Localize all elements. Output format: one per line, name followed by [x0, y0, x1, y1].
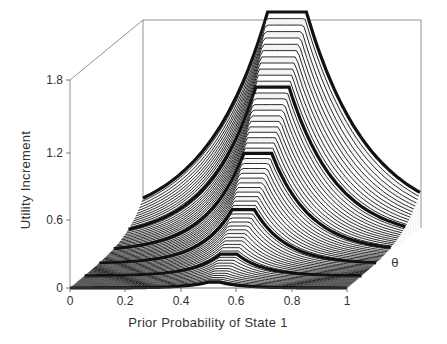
x-tick-label: 0.6	[228, 294, 245, 308]
x-tick-label: 0.2	[117, 294, 134, 308]
x-axis-title: Prior Probability of State 1	[128, 315, 287, 330]
x-tick-label: 0.4	[173, 294, 190, 308]
surface-ribbons	[70, 12, 420, 288]
x-tick-label: 0	[67, 294, 74, 308]
depth-axis-title: θ	[391, 255, 399, 270]
x-tick-label: 1	[344, 294, 351, 308]
x-tick-label: 0.8	[284, 294, 301, 308]
y-tick-label: 1.2	[46, 146, 63, 160]
y-tick-label: 0	[56, 281, 63, 295]
surface-chart: 0 0.2 0.4 0.6 0.8 1 Prior Probability of…	[0, 0, 447, 344]
y-axis-title: Utility Increment	[18, 131, 33, 229]
y-tick-label: 1.8	[46, 73, 63, 87]
y-axis	[66, 80, 70, 288]
y-tick-label: 0.6	[46, 213, 63, 227]
